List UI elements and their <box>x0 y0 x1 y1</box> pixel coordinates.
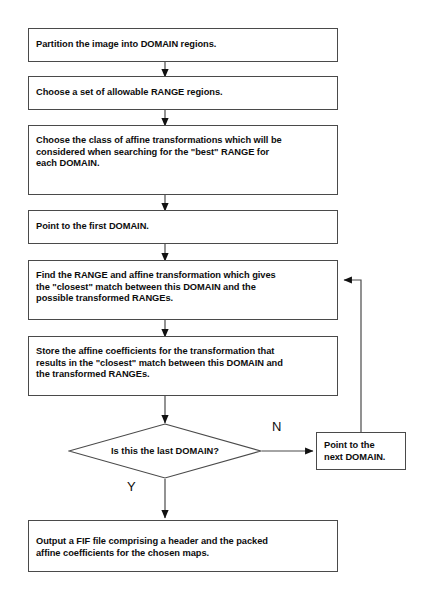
node-partition-image-label: Partition the image into DOMAIN regions. <box>36 39 216 51</box>
edge-label-yes: Y <box>127 479 136 494</box>
node-is-last-domain[interactable]: Is this the last DOMAIN? <box>68 423 262 479</box>
node-find-range-label: Find the RANGE and affine transformation… <box>36 270 276 305</box>
edge-label-no: N <box>272 419 281 434</box>
node-point-first-domain[interactable]: Point to the first DOMAIN. <box>28 210 338 244</box>
node-is-last-domain-label: Is this the last DOMAIN? <box>111 446 219 457</box>
node-choose-range-regions-label: Choose a set of allowable RANGE regions. <box>36 87 223 99</box>
node-choose-affine-class-label: Choose the class of affine transformatio… <box>36 135 282 170</box>
node-point-next-domain[interactable]: Point to the next DOMAIN. <box>316 432 406 470</box>
node-output-fif-file-label: Output a FIF file comprising a header an… <box>36 536 268 559</box>
node-find-range[interactable]: Find the RANGE and affine transformation… <box>28 260 338 320</box>
node-point-first-domain-label: Point to the first DOMAIN. <box>36 221 149 233</box>
node-point-next-domain-label: Point to the next DOMAIN. <box>324 440 385 463</box>
node-store-affine-coefficients-label: Store the affine coefficients for the tr… <box>36 346 283 381</box>
node-output-fif-file[interactable]: Output a FIF file comprising a header an… <box>28 520 338 572</box>
node-store-affine-coefficients[interactable]: Store the affine coefficients for the tr… <box>28 336 338 396</box>
node-choose-range-regions[interactable]: Choose a set of allowable RANGE regions. <box>28 76 338 110</box>
node-choose-affine-class[interactable]: Choose the class of affine transformatio… <box>28 125 338 195</box>
node-partition-image[interactable]: Partition the image into DOMAIN regions. <box>28 28 338 62</box>
edge-feedback-loop-to-find-range <box>344 280 361 432</box>
